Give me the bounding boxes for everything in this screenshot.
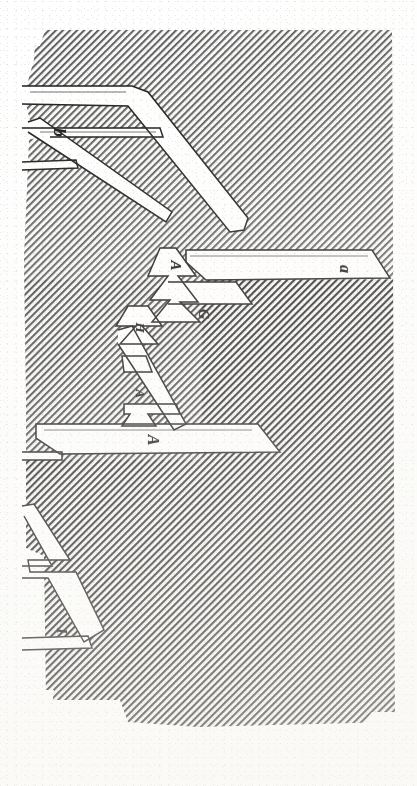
figure-label-H: H — [134, 322, 147, 332]
figure-label-I: I — [54, 628, 68, 633]
engraving-plate: b A a G H A A I — [0, 0, 417, 786]
figure-label-a-lower: A — [145, 435, 161, 446]
figure-label-a-right: a — [337, 265, 353, 273]
figure-svg — [0, 0, 417, 786]
figure-stage: b A a G H A A I — [0, 0, 417, 786]
figure-label-a-mid: A — [134, 389, 147, 398]
hatched-block-light-tone — [0, 0, 417, 786]
figure-label-b: b — [51, 128, 68, 137]
figure-label-a-upper: A — [168, 260, 183, 270]
figure-label-G: G — [196, 309, 210, 319]
